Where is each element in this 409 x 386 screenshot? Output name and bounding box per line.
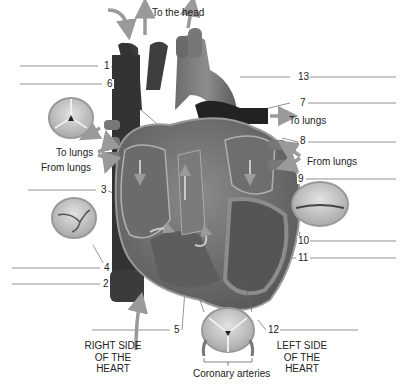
heart-diagram <box>0 0 409 386</box>
label-number-13: 13 <box>297 72 310 82</box>
left-side-label: LEFT SIDE OF THE HEART <box>272 340 332 375</box>
label-number-8: 8 <box>299 136 307 146</box>
label-number-9: 9 <box>297 174 305 184</box>
label-from-lungs-right: From lungs <box>307 156 357 167</box>
tricuspid-valve-inset <box>52 198 96 238</box>
label-number-12: 12 <box>267 325 280 335</box>
label-number-4: 4 <box>103 263 111 273</box>
label-number-6: 6 <box>106 79 114 89</box>
left-side-line-2: OF THE <box>272 352 332 364</box>
right-side-line-1: RIGHT SIDE <box>78 340 148 352</box>
pulmonary-valve-inset <box>49 98 93 138</box>
label-number-7: 7 <box>299 98 307 108</box>
right-side-line-2: OF THE <box>78 352 148 364</box>
label-to-lungs-left: To lungs <box>56 147 93 158</box>
mitral-valve-inset <box>292 182 348 226</box>
label-to-the-head: To the head <box>152 7 188 18</box>
right-atrium <box>121 145 170 238</box>
label-to-lungs-right: To lungs <box>289 115 326 126</box>
label-number-1: 1 <box>103 61 111 71</box>
label-number-11: 11 <box>297 253 309 263</box>
right-side-label: RIGHT SIDE OF THE HEART <box>78 340 148 375</box>
right-side-line-3: HEART <box>78 363 148 375</box>
label-number-3: 3 <box>100 185 108 195</box>
left-side-line-3: HEART <box>272 363 332 375</box>
label-number-10: 10 <box>297 236 310 246</box>
left-side-line-1: LEFT SIDE <box>272 340 332 352</box>
to-head-text: To the head <box>152 7 204 18</box>
label-number-5: 5 <box>173 325 181 335</box>
label-number-2: 2 <box>102 279 110 289</box>
coronary-arteries-caption: Coronary arteries <box>193 368 270 379</box>
label-from-lungs-left: From lungs <box>41 162 91 173</box>
